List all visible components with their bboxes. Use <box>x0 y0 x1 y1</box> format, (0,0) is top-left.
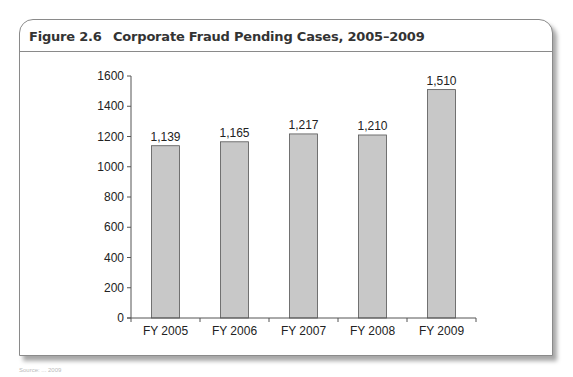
x-category-label: FY 2009 <box>419 324 464 338</box>
bar-value-label: 1,139 <box>150 130 180 144</box>
y-axis: 02004006008001000120014001600 <box>97 69 131 325</box>
x-category-label: FY 2005 <box>143 324 188 338</box>
bar <box>428 90 456 318</box>
y-tick-label: 0 <box>117 311 124 325</box>
bar-value-label: 1,165 <box>219 126 249 140</box>
y-tick-label: 1200 <box>97 130 124 144</box>
x-category-label: FY 2008 <box>350 324 395 338</box>
y-tick-label: 400 <box>104 251 124 265</box>
y-tick-label: 1400 <box>97 99 124 113</box>
bar <box>290 134 318 318</box>
bar <box>152 146 180 318</box>
bar-value-label: 1,210 <box>357 119 387 133</box>
bar <box>359 135 387 318</box>
x-category-label: FY 2007 <box>281 324 326 338</box>
y-tick-label: 600 <box>104 220 124 234</box>
bar-chart: 02004006008001000120014001600 1,1391,165… <box>0 0 573 377</box>
y-tick-label: 800 <box>104 190 124 204</box>
x-category-label: FY 2006 <box>212 324 257 338</box>
bar <box>221 142 249 318</box>
y-tick-label: 1000 <box>97 160 124 174</box>
bar-value-label: 1,217 <box>288 118 318 132</box>
bar-value-label: 1,510 <box>426 74 456 88</box>
source-note: Source: ... 2009 <box>19 367 61 373</box>
y-tick-label: 200 <box>104 281 124 295</box>
bars: 1,1391,1651,2171,2101,510 <box>150 74 456 318</box>
y-tick-label: 1600 <box>97 69 124 83</box>
x-axis: FY 2005FY 2006FY 2007FY 2008FY 2009 <box>127 318 476 338</box>
